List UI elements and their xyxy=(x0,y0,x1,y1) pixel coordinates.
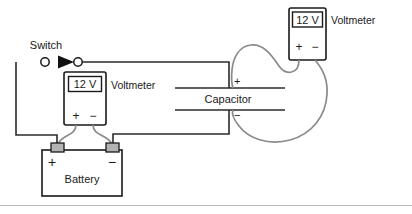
voltmeter-left-leads xyxy=(58,125,112,144)
switch-left-contact xyxy=(41,58,49,66)
circuit-diagram: Switch 12 V + − Voltmeter + − Battery xyxy=(0,0,412,214)
battery: + − Battery xyxy=(42,143,122,196)
lead-voltmeter-left-negative xyxy=(93,125,112,144)
switch-symbol[interactable] xyxy=(41,56,82,69)
wire-battery-negative-to-capacitor-negative xyxy=(113,110,229,146)
capacitor-label: Capacitor xyxy=(204,93,251,105)
diagram-canvas: Switch 12 V + − Voltmeter + − Battery xyxy=(0,0,412,214)
voltmeter-top-label: Voltmeter xyxy=(331,14,376,26)
voltmeter-top[interactable]: 12 V + − xyxy=(289,8,326,60)
battery-negative-post xyxy=(106,143,119,152)
voltmeter-top-negative-sign: − xyxy=(311,40,318,54)
bottom-divider xyxy=(0,205,412,206)
switch-right-contact xyxy=(74,58,82,66)
capacitor-positive-sign: + xyxy=(234,75,240,87)
voltmeter-left-positive-sign: + xyxy=(72,109,79,123)
battery-positive-post xyxy=(51,143,64,152)
voltmeter-left[interactable]: 12 V + − xyxy=(64,72,106,125)
circuit-wires-dark xyxy=(16,62,229,146)
switch-arrow-icon xyxy=(58,56,74,69)
voltmeter-top-positive-sign: + xyxy=(295,40,302,54)
voltmeter-top-reading: 12 V xyxy=(296,14,319,26)
wire-switch-to-battery-positive xyxy=(16,62,57,146)
capacitor: + − Capacitor xyxy=(175,75,285,121)
voltmeter-left-label: Voltmeter xyxy=(111,79,156,91)
voltmeter-left-negative-sign: − xyxy=(89,109,96,123)
lead-voltmeter-left-positive xyxy=(58,125,76,144)
switch-label: Switch xyxy=(30,39,62,51)
battery-label: Battery xyxy=(65,173,100,185)
voltmeter-left-reading: 12 V xyxy=(74,78,97,90)
battery-negative-sign: − xyxy=(108,154,116,170)
battery-positive-sign: + xyxy=(48,154,56,170)
